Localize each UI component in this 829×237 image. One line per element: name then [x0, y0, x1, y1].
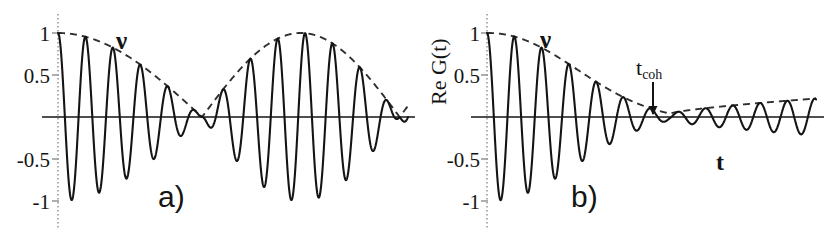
tcoh-subscript: coh — [642, 67, 662, 82]
panel-b: Re G(t) 1 0.5 -0.5 -1 ν tcoh t b) — [414, 0, 829, 237]
panel-a-label: a) — [158, 182, 185, 212]
plot-a-canvas — [0, 0, 415, 237]
panel-a-ytick-neg1: -1 — [0, 192, 50, 213]
panel-a-envelope-label-nu: ν — [116, 28, 127, 53]
panel-b-envelope-label-nu: ν — [540, 27, 551, 52]
panel-b-ytick-neg1: -1 — [430, 192, 480, 213]
panel-b-ytick-neg05: -0.5 — [424, 150, 480, 171]
panel-a-ytick-05: 0.5 — [0, 66, 50, 87]
panel-b-label: b) — [571, 182, 598, 212]
panel-a-ytick-1: 1 — [6, 24, 50, 45]
panel-b-xaxis-label: t — [716, 150, 724, 174]
panel-b-tcoh-annotation: tcoh — [636, 57, 662, 79]
panel-a-ytick-neg05: -0.5 — [0, 150, 50, 171]
figure-container: 1 0.5 -0.5 -1 ν a) Re G(t) 1 0.5 -0.5 -1… — [0, 0, 829, 237]
panel-b-ytick-1: 1 — [436, 24, 480, 45]
panel-b-ytick-05: 0.5 — [430, 66, 480, 87]
panel-a: 1 0.5 -0.5 -1 ν a) — [0, 0, 415, 237]
